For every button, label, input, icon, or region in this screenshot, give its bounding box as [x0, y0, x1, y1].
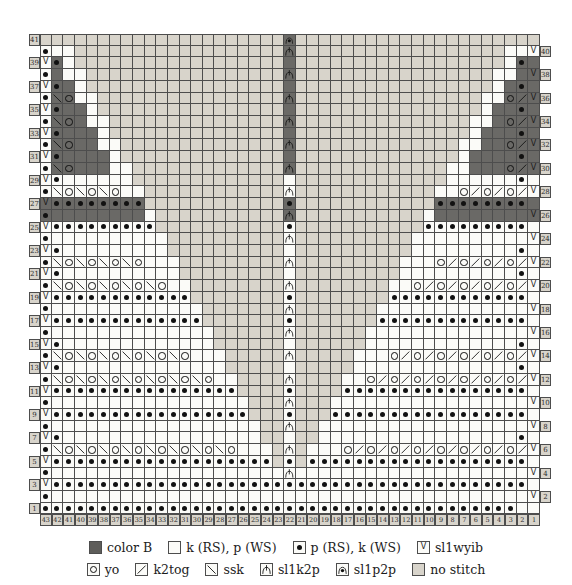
chart-cell	[342, 175, 354, 187]
purl-dot-icon	[496, 412, 501, 417]
yarnover-icon	[507, 446, 515, 454]
chart-cell	[249, 280, 261, 292]
chart-cell	[191, 81, 203, 93]
chart-cell	[75, 304, 87, 316]
chart-cell	[389, 468, 401, 480]
purl-dot-icon	[182, 388, 187, 393]
chart-cell	[110, 386, 122, 398]
chart-cell	[366, 81, 378, 93]
chart-cell	[470, 491, 482, 503]
purl-dot-icon	[519, 365, 524, 370]
row-label-left: 31	[29, 151, 40, 163]
legend-swatch	[260, 563, 273, 576]
chart-cell	[238, 491, 250, 503]
chart-cell	[493, 327, 505, 339]
chart-cell	[110, 327, 122, 339]
chart-cell	[435, 491, 447, 503]
chart-cell	[249, 315, 261, 327]
purl-dot-icon	[450, 459, 455, 464]
chart-cell	[180, 409, 192, 421]
chart-cell	[389, 315, 401, 327]
purl-dot-icon	[450, 388, 455, 393]
yarnover-icon	[460, 282, 468, 290]
purl-dot-icon	[450, 318, 455, 323]
chart-cell	[145, 409, 157, 421]
chart-cell	[238, 339, 250, 351]
chart-cell: V	[40, 339, 52, 351]
slip-v-icon: V	[41, 175, 51, 186]
chart-cell	[98, 409, 110, 421]
chart-cell	[307, 210, 319, 222]
chart-cell	[191, 503, 203, 515]
chart-cell: V	[528, 116, 540, 128]
legend-item: color B	[89, 540, 152, 555]
chart-cell	[400, 503, 412, 515]
chart-cell	[121, 468, 133, 480]
chart-cell	[133, 104, 145, 116]
row-label-left-empty	[29, 69, 40, 81]
chart-cell	[156, 292, 168, 304]
chart-cell	[121, 57, 133, 69]
chart-cell	[470, 116, 482, 128]
purl-dot-icon	[124, 295, 129, 300]
k2tog-icon	[470, 444, 481, 455]
chart-cell	[470, 292, 482, 304]
chart-cell	[470, 245, 482, 257]
chart-cell	[180, 69, 192, 81]
chart-cell	[180, 81, 192, 93]
purl-dot-icon	[426, 459, 431, 464]
chart-cell	[284, 257, 296, 269]
chart-cell	[238, 34, 250, 46]
chart-cell	[342, 151, 354, 163]
chart-cell	[470, 421, 482, 433]
row-label-right-empty	[540, 409, 551, 421]
yarnover-icon	[367, 446, 375, 454]
yarnover-icon	[391, 376, 399, 384]
legend-swatch	[205, 563, 218, 576]
chart-cell	[319, 350, 331, 362]
purl-dot-icon	[322, 482, 327, 487]
chart-cell	[87, 409, 99, 421]
chart-cell	[493, 468, 505, 480]
chart-cell	[505, 468, 517, 480]
yarnover-icon	[507, 141, 515, 149]
chart-cell	[307, 503, 319, 515]
chart-cell	[63, 268, 75, 280]
yarnover-icon	[507, 118, 515, 126]
chart-cell	[412, 128, 424, 140]
legend-item: k (RS), p (WS)	[168, 540, 276, 555]
chart-cell	[133, 350, 145, 362]
chart-cell	[447, 362, 459, 374]
chart-cell	[424, 222, 436, 234]
yarnover-icon	[437, 282, 445, 290]
slip-v-icon: V	[528, 468, 539, 479]
col-number: 27	[226, 514, 238, 526]
chart-cell	[180, 163, 192, 175]
chart-cell	[40, 327, 52, 339]
k2tog-icon	[517, 374, 528, 385]
chart-cell	[459, 456, 471, 468]
chart-cell	[261, 362, 273, 374]
chart-cell	[52, 163, 64, 175]
chart-cell	[226, 69, 238, 81]
chart-cell	[87, 69, 99, 81]
chart-cell	[110, 139, 122, 151]
col-number: 18	[331, 514, 343, 526]
chart-cell	[493, 491, 505, 503]
chart-cell	[284, 128, 296, 140]
purl-dot-icon	[485, 295, 490, 300]
chart-cell	[470, 222, 482, 234]
chart-cell	[214, 93, 226, 105]
chart-cell	[133, 362, 145, 374]
chart-cell	[156, 245, 168, 257]
chart-cell	[180, 222, 192, 234]
chart-cell	[261, 327, 273, 339]
k2tog-icon	[493, 257, 504, 268]
sl1p2p-icon	[284, 35, 295, 45]
chart-cell	[249, 456, 261, 468]
chart-cell	[98, 151, 110, 163]
chart-cell	[447, 315, 459, 327]
chart-cell	[482, 245, 494, 257]
chart-cell: V	[528, 327, 540, 339]
chart-cell	[261, 479, 273, 491]
